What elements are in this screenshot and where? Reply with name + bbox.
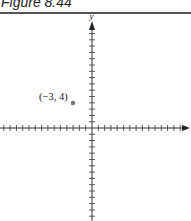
y-axis-arrow-icon xyxy=(89,21,95,30)
data-point-label: (−3, 4) xyxy=(39,91,68,103)
x-axis-arrow-icon xyxy=(182,125,190,131)
data-point xyxy=(71,101,76,106)
y-axis-label: y xyxy=(89,11,94,21)
coordinate-plane: y (−3, 4) xyxy=(0,0,191,221)
